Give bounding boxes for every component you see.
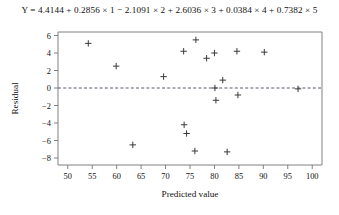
data-point (295, 86, 301, 92)
data-point (180, 48, 186, 54)
y-tick-label: 6 (47, 32, 51, 41)
data-point (203, 55, 209, 61)
data-point (181, 122, 187, 128)
axis-ticks (54, 36, 312, 170)
data-point (211, 50, 217, 56)
data-point (192, 148, 198, 154)
scatter-plot-canvas: 505560657075808590951006420−2−4−6−8 Pred… (0, 0, 339, 215)
y-axis-title: Residual (10, 82, 20, 115)
data-point (261, 49, 267, 55)
x-tick-label: 65 (137, 172, 145, 181)
y-tick-label: 4 (47, 49, 52, 58)
x-tick-label: 60 (112, 172, 120, 181)
data-point (213, 97, 219, 103)
y-tick-label: 2 (47, 67, 51, 76)
data-point (183, 130, 189, 136)
data-points-group (85, 37, 301, 155)
data-point (113, 63, 119, 69)
plot-frame (58, 32, 322, 165)
data-point (234, 48, 240, 54)
y-tick-label: −8 (42, 154, 51, 163)
data-point (220, 77, 226, 83)
residual-plot-figure: Y = 4.4144 + 0.2856 × 1 − 2.1091 × 2 + 2… (0, 0, 339, 215)
data-point (212, 85, 218, 91)
data-point (85, 40, 91, 46)
x-tick-label: 90 (259, 172, 267, 181)
x-tick-label: 100 (306, 172, 319, 181)
data-point (130, 142, 136, 148)
axis-tick-labels: 505560657075808590951006420−2−4−6−8 (42, 32, 318, 182)
data-point (235, 92, 241, 98)
data-point (224, 149, 230, 155)
y-tick-label: −4 (42, 119, 52, 128)
data-point (193, 37, 199, 43)
x-tick-label: 50 (64, 172, 72, 181)
y-tick-label: −2 (42, 102, 51, 111)
x-tick-label: 75 (186, 172, 194, 181)
x-tick-label: 80 (210, 172, 218, 181)
y-tick-label: −6 (42, 137, 51, 146)
y-tick-label: 0 (47, 84, 51, 93)
x-tick-label: 95 (284, 172, 292, 181)
x-tick-label: 85 (235, 172, 243, 181)
x-axis-title: Predicted value (162, 189, 219, 199)
x-tick-label: 55 (88, 172, 96, 181)
x-tick-label: 70 (161, 172, 169, 181)
data-point (160, 73, 166, 79)
plot-border (58, 32, 322, 165)
